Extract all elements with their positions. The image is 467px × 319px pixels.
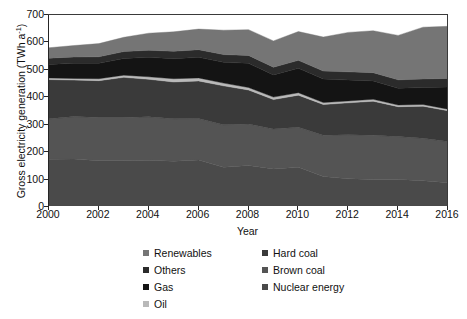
legend-column-left: RenewablesOthersGasOil: [143, 244, 212, 312]
legend-item-renewables[interactable]: Renewables: [143, 244, 212, 261]
legend-item-others[interactable]: Others: [143, 261, 212, 278]
x-axis-tick-mark: [98, 206, 99, 210]
x-axis-tick-mark: [248, 206, 249, 210]
legend-item-gas[interactable]: Gas: [143, 278, 212, 295]
legend-label: Nuclear energy: [273, 281, 344, 293]
chart-legend: RenewablesOthersGasOil Hard coalBrown co…: [0, 244, 467, 316]
legend-column-right: Hard coalBrown coalNuclear energy: [262, 244, 344, 295]
legend-item-brown-coal[interactable]: Brown coal: [262, 261, 344, 278]
legend-item-nuclear-energy[interactable]: Nuclear energy: [262, 278, 344, 295]
y-axis-title-superscript: -1: [14, 27, 23, 34]
legend-label: Hard coal: [273, 247, 318, 259]
y-axis-title-text: Gross electricity generation (TWh a: [15, 34, 27, 199]
swatch-hard-coal-icon: [262, 250, 268, 256]
plot-area: [48, 14, 447, 206]
plot-frame-top: [48, 14, 447, 15]
stacked-area-series-group: [49, 14, 448, 206]
legend-item-hard-coal[interactable]: Hard coal: [262, 244, 344, 261]
swatch-gas-icon: [143, 284, 149, 290]
swatch-renewables-icon: [143, 250, 149, 256]
x-axis-tick-mark: [447, 206, 448, 210]
x-axis-tick-mark: [397, 206, 398, 210]
plot-frame-right: [447, 14, 448, 206]
x-axis-title: Year: [48, 225, 447, 237]
swatch-nuclear-energy-icon: [262, 284, 268, 290]
chart-figure: Gross electricity generation (TWh a-1) 0…: [0, 0, 467, 319]
legend-item-oil[interactable]: Oil: [143, 295, 212, 312]
legend-label: Others: [154, 264, 186, 276]
y-axis-title-close-paren: ): [15, 24, 27, 28]
swatch-others-icon: [143, 267, 149, 273]
legend-label: Oil: [154, 298, 167, 310]
x-axis-tick-mark: [48, 206, 49, 210]
x-axis-tick-mark: [198, 206, 199, 210]
x-axis-tick-mark: [148, 206, 149, 210]
legend-label: Gas: [154, 281, 173, 293]
swatch-oil-icon: [143, 301, 149, 307]
swatch-brown-coal-icon: [262, 267, 268, 273]
y-axis-title: Gross electricity generation (TWh a-1): [15, 21, 27, 201]
legend-label: Renewables: [154, 247, 212, 259]
x-axis-tick-mark: [297, 206, 298, 210]
legend-label: Brown coal: [273, 264, 325, 276]
x-axis-tick-mark: [347, 206, 348, 210]
